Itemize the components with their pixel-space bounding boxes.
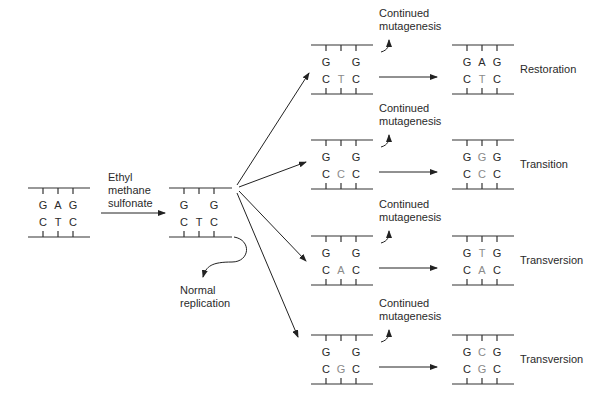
original-duplex: [28, 188, 90, 237]
result-1-bottom-2: C: [493, 73, 501, 85]
result-4-top-2: G: [493, 346, 502, 358]
result-4-top-1: C: [478, 346, 486, 358]
result-3-top-2: G: [493, 247, 502, 259]
continued-mutagenesis-arrow-1: [381, 40, 389, 52]
continued-mutagenesis-label-4: Continuedmutagenesis: [379, 297, 441, 323]
outcome-label-4: Transversion: [520, 353, 583, 365]
intermediate-duplex-2: [311, 140, 373, 189]
continued-mutagenesis-arrow-2: [381, 135, 389, 147]
reagent-line-1: Ethyl: [108, 171, 153, 184]
alk-top-2: G: [210, 199, 219, 211]
result-2-bottom-0: C: [463, 168, 471, 180]
intermediate-1-bottom-2: C: [352, 73, 360, 85]
result-4-bottom-0: C: [463, 363, 471, 375]
intermediate-2-bottom-0: C: [322, 168, 330, 180]
intermediate-3-bottom-2: C: [352, 264, 360, 276]
intermediate-1-top-2: G: [352, 56, 361, 68]
reagent-label: Ethyl methane sulfonate: [108, 171, 153, 210]
result-1-bottom-0: C: [463, 73, 471, 85]
intermediate-2-bottom-1: C: [337, 168, 345, 180]
result-duplex-3: [452, 236, 514, 285]
alk-bottom-1: T: [196, 216, 203, 228]
result-2-top-1: G: [478, 151, 487, 163]
outcome-label-3: Transversion: [520, 254, 583, 266]
intermediate-1-top-0: G: [322, 56, 331, 68]
orig-top-2: G: [69, 199, 78, 211]
result-1-top-2: G: [493, 56, 502, 68]
intermediate-2-top-0: G: [322, 151, 331, 163]
orig-bottom-2: C: [69, 216, 77, 228]
intermediate-3-top-2: G: [352, 247, 361, 259]
result-2-top-2: G: [493, 151, 502, 163]
result-3-bottom-1: A: [478, 264, 486, 276]
result-3-bottom-0: C: [463, 264, 471, 276]
result-1-top-0: G: [463, 56, 472, 68]
normal-replication-label: Normal replication: [180, 284, 230, 310]
result-2-top-0: G: [463, 151, 472, 163]
mutagenesis-diagram: G A G C T C G G C T C GGCTCGAGCTCGGCCCGG…: [0, 0, 602, 406]
result-4-bottom-1: G: [478, 363, 487, 375]
continued-mutagenesis-label-3: Continuedmutagenesis: [379, 198, 441, 224]
intermediate-3-bottom-1: A: [337, 264, 345, 276]
result-4-bottom-2: C: [493, 363, 501, 375]
orig-top-0: G: [39, 199, 48, 211]
intermediate-3-top-0: G: [322, 247, 331, 259]
intermediate-duplex-3: [311, 236, 373, 285]
result-duplex-1: [452, 45, 514, 94]
normal-replication-arrow: [203, 237, 247, 277]
result-1-top-1: A: [478, 56, 486, 68]
intermediate-duplex-1: [311, 45, 373, 94]
continued-mutagenesis-label-2: Continuedmutagenesis: [379, 102, 441, 128]
intermediate-4-bottom-0: C: [322, 363, 330, 375]
intermediate-2-bottom-2: C: [352, 168, 360, 180]
alk-bottom-2: C: [210, 216, 218, 228]
result-2-bottom-2: C: [493, 168, 501, 180]
orig-bottom-0: C: [39, 216, 47, 228]
result-duplex-2: [452, 140, 514, 189]
continued-mutagenesis-arrow-4: [381, 330, 389, 342]
intermediate-1-bottom-0: C: [322, 73, 330, 85]
result-3-top-1: T: [479, 247, 486, 259]
orig-bottom-1: T: [55, 216, 62, 228]
alk-top-0: G: [180, 199, 189, 211]
continued-mutagenesis-label-1: Continuedmutagenesis: [379, 7, 441, 33]
intermediate-1-bottom-1: T: [338, 73, 345, 85]
intermediate-3-bottom-0: C: [322, 264, 330, 276]
result-2-bottom-1: C: [478, 168, 486, 180]
fan-arrow-1: [237, 73, 309, 185]
alkylated-duplex: [169, 188, 232, 237]
result-1-bottom-1: T: [479, 73, 486, 85]
normal-line-1: Normal: [180, 284, 230, 297]
result-duplex-4: [452, 335, 514, 384]
result-3-top-0: G: [463, 247, 472, 259]
result-3-bottom-2: C: [493, 264, 501, 276]
fan-arrow-4: [237, 193, 298, 337]
intermediate-4-bottom-1: G: [337, 363, 346, 375]
fan-arrow-3: [239, 191, 306, 261]
intermediate-4-top-2: G: [352, 346, 361, 358]
alk-bottom-0: C: [180, 216, 188, 228]
normal-line-2: replication: [180, 297, 230, 310]
orig-top-1: A: [54, 199, 62, 211]
intermediate-4-bottom-2: C: [352, 363, 360, 375]
intermediate-4-top-0: G: [322, 346, 331, 358]
intermediate-duplex-4: [311, 335, 373, 384]
reagent-line-3: sulfonate: [108, 197, 153, 210]
outcome-label-1: Restoration: [520, 63, 576, 75]
result-4-top-0: G: [463, 346, 472, 358]
reagent-line-2: methane: [108, 184, 153, 197]
outcome-label-2: Transition: [520, 158, 568, 170]
continued-mutagenesis-arrow-3: [381, 231, 389, 243]
intermediate-2-top-2: G: [352, 151, 361, 163]
